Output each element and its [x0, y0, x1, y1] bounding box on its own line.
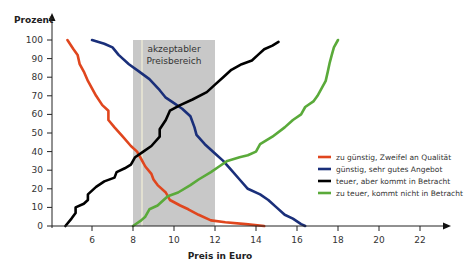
x-tick-label: 12 [209, 235, 220, 245]
y-tick-label: 20 [32, 184, 44, 194]
x-tick-label: 8 [130, 235, 136, 245]
y-axis: 0102030405060708090100 Prozent [14, 13, 56, 231]
y-tick-label: 0 [37, 221, 43, 231]
legend-label: zu teuer, kommt nicht in Betracht [336, 189, 463, 198]
legend-item: zu günstig, Zweifel an Qualität [318, 153, 451, 162]
x-axis-title: Preis in Euro [188, 251, 253, 261]
x-tick-label: 6 [89, 235, 95, 245]
legend-label: zu günstig, Zweifel an Qualität [336, 153, 451, 162]
y-tick-label: 40 [32, 147, 44, 157]
y-tick-label: 10 [32, 202, 44, 212]
legend-label: günstig, sehr gutes Angebot [336, 165, 442, 174]
x-tick-label: 14 [250, 235, 262, 245]
legend-item: zu teuer, kommt nicht in Betracht [318, 189, 463, 198]
y-tick-label: 80 [32, 72, 44, 82]
legend: zu günstig, Zweifel an Qualität günstig,… [318, 153, 463, 198]
price-sensitivity-chart: akzeptabler Preisbereich 010203040506070… [0, 0, 476, 272]
y-tick-label: 30 [32, 165, 44, 175]
y-tick-label: 70 [32, 91, 44, 101]
y-tick-label: 90 [32, 54, 44, 64]
y-tick-label: 100 [26, 35, 43, 45]
legend-item: günstig, sehr gutes Angebot [318, 165, 442, 174]
band-label-line1: akzeptabler [147, 44, 200, 54]
legend-item: teuer, aber kommt in Betracht [318, 177, 450, 186]
y-tick-label: 50 [32, 128, 44, 138]
band-label-line2: Preisbereich [147, 56, 202, 66]
y-tick-label: 60 [32, 109, 44, 119]
x-tick-label: 16 [291, 235, 303, 245]
x-tick-label: 10 [168, 235, 180, 245]
y-axis-title: Prozent [14, 15, 54, 25]
x-tick-label: 18 [332, 235, 344, 245]
x-axis-arrow-icon [443, 223, 451, 230]
x-tick-label: 20 [373, 235, 385, 245]
acceptable-price-band: akzeptabler Preisbereich [133, 40, 215, 226]
x-axis: 6810121416182022 Preis in Euro [52, 223, 451, 262]
x-tick-label: 22 [414, 235, 425, 245]
legend-label: teuer, aber kommt in Betracht [336, 177, 450, 186]
